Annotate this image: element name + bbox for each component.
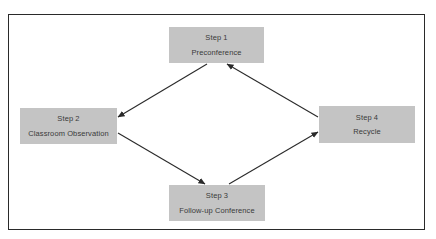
node-step1-preconference: Step 1 Preconference <box>169 27 264 63</box>
node-title: Follow-up Conference <box>179 207 254 215</box>
node-step3-follow-up-conference: Step 3 Follow-up Conference <box>169 185 265 221</box>
node-step4-recycle: Step 4 Recycle <box>319 106 415 143</box>
node-title: Classroom Observation <box>28 130 108 138</box>
node-step2-classroom-observation: Step 2 Classroom Observation <box>20 108 117 144</box>
node-step-label: Step 2 <box>57 115 79 123</box>
node-title: Preconference <box>191 49 241 57</box>
node-step-label: Step 1 <box>205 34 227 42</box>
node-step-label: Step 3 <box>206 192 228 200</box>
node-step-label: Step 4 <box>356 114 378 122</box>
node-title: Recycle <box>353 128 380 136</box>
